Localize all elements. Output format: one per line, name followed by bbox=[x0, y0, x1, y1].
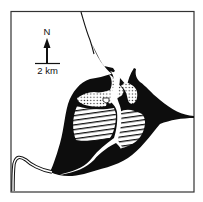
map-canvas: N 2 km bbox=[0, 0, 203, 202]
scale-bar: 2 km bbox=[35, 64, 60, 77]
map-figure: N 2 km bbox=[0, 0, 203, 202]
north-label: N bbox=[44, 26, 51, 37]
hatched-area bbox=[73, 106, 116, 141]
scale-label: 2 km bbox=[37, 65, 58, 76]
